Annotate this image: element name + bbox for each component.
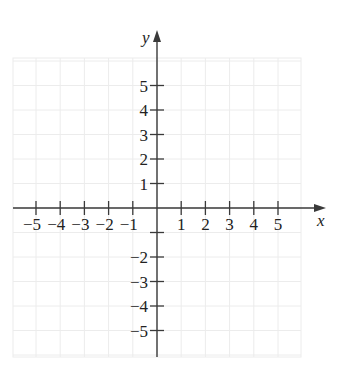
y-tick-label: 5 [140,77,149,96]
x-tick-label: 3 [225,215,234,234]
y-tick-label: 4 [140,101,149,120]
x-tick-label: −1 [120,215,138,234]
x-tick-label: −2 [96,215,114,234]
x-tick-label: −5 [23,215,41,234]
x-axis-label: x [316,211,325,230]
y-axis-arrow-icon [153,30,161,42]
x-tick-label: 5 [274,215,283,234]
x-tick-label: −3 [71,215,89,234]
y-tick-label: 1 [140,175,149,194]
x-tick-label: −4 [47,215,66,234]
x-tick-label: 1 [177,215,186,234]
y-tick-label: −2 [130,248,148,267]
y-tick-label: −5 [130,322,148,341]
y-axis-label: y [140,28,150,47]
x-tick-label: 2 [201,215,210,234]
y-tick-label: 3 [140,126,149,145]
coordinate-plane: −5−4−3−2−11234554321−2−3−4−5 x y [0,0,339,367]
y-tick-label: −4 [130,297,149,316]
y-tick-label: 2 [140,150,149,169]
y-tick-label: −3 [130,273,148,292]
x-tick-label: 4 [250,215,259,234]
